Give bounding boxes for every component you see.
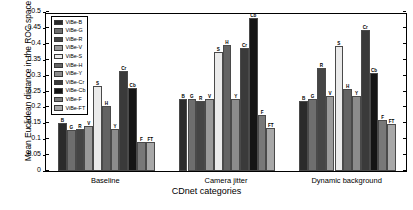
legend-swatch bbox=[54, 28, 63, 34]
y-axis-inner-tick-left bbox=[46, 122, 49, 123]
y-axis-tick-mark bbox=[43, 92, 46, 93]
legend-item: ViBe-Cr bbox=[54, 78, 85, 87]
y-axis-tick-mark bbox=[43, 171, 46, 172]
bar-value-label: V bbox=[329, 92, 332, 97]
legend-label: ViBe-G bbox=[66, 28, 83, 33]
legend-swatch bbox=[54, 37, 63, 43]
bar: V bbox=[326, 96, 335, 171]
y-axis-tick-mark bbox=[43, 44, 46, 45]
bar-value-label: Cb bbox=[371, 69, 377, 74]
y-axis-inner-tick-right bbox=[403, 43, 406, 44]
bar: Cr bbox=[119, 71, 128, 171]
bar-value-label: F bbox=[140, 138, 143, 143]
legend-swatch bbox=[54, 71, 63, 77]
legend-swatch bbox=[54, 105, 63, 111]
bar: R bbox=[317, 68, 326, 171]
bar: Cr bbox=[361, 30, 370, 171]
y-axis-inner-tick-right bbox=[403, 154, 406, 155]
bar: B bbox=[58, 123, 67, 171]
bar-value-label: R bbox=[320, 64, 323, 69]
bar: B bbox=[299, 101, 308, 171]
y-axis-inner-tick-left bbox=[46, 170, 49, 171]
y-axis-inner-tick-left bbox=[46, 91, 49, 92]
legend-swatch bbox=[54, 80, 63, 86]
bar: G bbox=[67, 130, 76, 171]
bar: S bbox=[335, 46, 344, 171]
y-axis-inner-tick-left bbox=[46, 106, 49, 107]
bar: S bbox=[214, 52, 223, 171]
legend-label: ViBe-Y bbox=[66, 71, 83, 76]
legend-swatch bbox=[54, 97, 63, 103]
y-axis-inner-tick-left bbox=[46, 27, 49, 28]
bar-value-label: B bbox=[61, 119, 64, 124]
legend-label: ViBe-H bbox=[66, 63, 83, 68]
bar: G bbox=[308, 99, 317, 171]
bar-value-label: Y bbox=[355, 92, 358, 97]
legend-label: ViBe-Cb bbox=[66, 88, 86, 93]
bar-value-label: B bbox=[181, 95, 184, 100]
y-axis-tick-label: 0.5 bbox=[31, 7, 41, 14]
bar: V bbox=[84, 126, 93, 171]
bar-value-label: Y bbox=[114, 125, 117, 130]
bar: F bbox=[258, 115, 267, 171]
bar: Y bbox=[352, 96, 361, 171]
legend-item: ViBe-H bbox=[54, 61, 85, 70]
bar: FT bbox=[387, 124, 396, 171]
bar: Cb bbox=[128, 88, 137, 171]
y-axis-inner-tick-left bbox=[46, 154, 49, 155]
legend-swatch bbox=[54, 45, 63, 51]
y-axis-tick-label: 0.3 bbox=[31, 71, 41, 78]
bar: S bbox=[93, 86, 102, 171]
y-axis-inner-tick-left bbox=[46, 11, 49, 12]
y-axis-inner-tick-left bbox=[46, 43, 49, 44]
y-axis-tick-label: 0.15 bbox=[27, 118, 41, 125]
y-axis-tick-label: 0.25 bbox=[27, 87, 41, 94]
legend-item: ViBe-S bbox=[54, 52, 85, 61]
legend-swatch bbox=[54, 88, 63, 94]
figure-root: Mean Euclidean distance in the ROC space… bbox=[0, 0, 413, 210]
x-axis-category-label: Camera jitter bbox=[205, 176, 248, 185]
bar: Cb bbox=[249, 18, 258, 171]
bar-value-label: S bbox=[217, 48, 220, 53]
y-axis-inner-tick-left bbox=[46, 59, 49, 60]
y-axis-tick-label: 0.35 bbox=[27, 55, 41, 62]
legend-item: ViBe-Y bbox=[54, 70, 85, 79]
y-axis-inner-tick-right bbox=[403, 106, 406, 107]
bar-value-label: F bbox=[381, 116, 384, 121]
legend-label: ViBe-R bbox=[66, 37, 83, 42]
y-axis-inner-tick-right bbox=[403, 59, 406, 60]
legend-item: ViBe-F bbox=[54, 95, 85, 104]
bar: F bbox=[137, 142, 146, 171]
y-axis-tick-label: 0.2 bbox=[31, 102, 41, 109]
bar: FT bbox=[146, 142, 155, 171]
bar: Cr bbox=[240, 48, 249, 171]
bar: R bbox=[196, 101, 205, 171]
bar-value-label: Cb bbox=[250, 14, 256, 19]
y-axis-tick-mark bbox=[43, 76, 46, 77]
bar-value-label: V bbox=[208, 95, 211, 100]
y-axis-tick-mark bbox=[43, 60, 46, 61]
legend-swatch bbox=[54, 63, 63, 69]
bar-value-label: Cb bbox=[130, 84, 136, 89]
legend-label: ViBe-FT bbox=[66, 106, 86, 111]
bar-value-label: R bbox=[78, 125, 81, 130]
y-axis-tick-mark bbox=[43, 123, 46, 124]
bar-value-label: S bbox=[96, 82, 99, 87]
bar: G bbox=[188, 99, 197, 171]
bar-value-label: G bbox=[311, 95, 315, 100]
y-axis-tick-label: 0.4 bbox=[31, 39, 41, 46]
y-axis-inner-tick-left bbox=[46, 75, 49, 76]
x-axis-title: CDnet categories bbox=[0, 186, 413, 196]
y-axis-tick-label: 0.05 bbox=[27, 150, 41, 157]
x-axis-category-label: Dynamic background bbox=[311, 176, 381, 185]
bar-value-label: H bbox=[225, 41, 228, 46]
legend-item: ViBe-B bbox=[54, 18, 85, 27]
bar-value-label: FT bbox=[268, 124, 274, 129]
legend-label: ViBe-Cr bbox=[66, 80, 85, 85]
legend-item: ViBe-V bbox=[54, 44, 85, 53]
bar: F bbox=[378, 120, 387, 171]
bar: Y bbox=[111, 129, 120, 171]
legend-item: ViBe-Cb bbox=[54, 87, 85, 96]
bar-value-label: B bbox=[302, 97, 305, 102]
y-axis-tick-mark bbox=[43, 107, 46, 108]
